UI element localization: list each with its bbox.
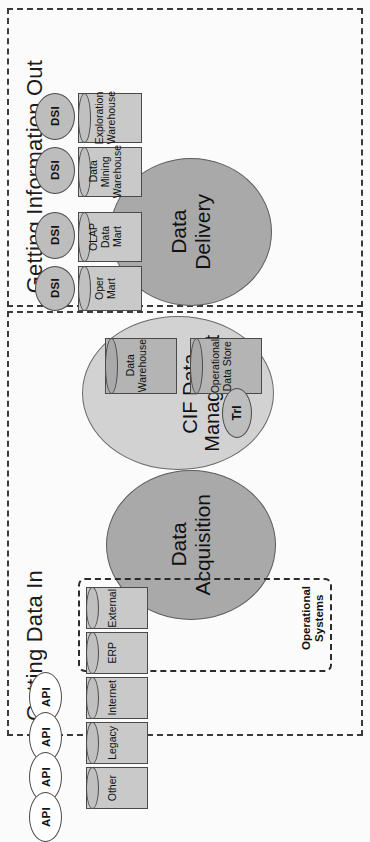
operational-systems-group-label: OperationalSystems — [300, 586, 326, 650]
api-connector-1-label: API — [40, 687, 52, 707]
source-external: External — [86, 587, 148, 629]
process-data-delivery-label: DataDelivery — [167, 194, 214, 270]
store-olap-data-mart-label: OLAP DataMart — [88, 213, 131, 261]
store-data-warehouse-label: DataWarehouse — [125, 339, 157, 392]
api-connector-3-label: API — [40, 767, 52, 787]
store-exploration-warehouse: ExplorationWarehouse — [78, 93, 142, 143]
consumer-dsi-3: DSI — [35, 212, 75, 259]
store-data-warehouse: DataWarehouse — [105, 338, 177, 394]
consumer-dsi-2-label: DSI — [49, 160, 61, 180]
store-trl-adjunct-label: Trl — [230, 405, 244, 421]
store-data-mining-warehouse-label: Data MiningWarehouse — [88, 145, 131, 198]
source-legacy: Legacy — [86, 722, 148, 764]
api-connector-4: API — [29, 792, 62, 842]
consumer-dsi-4-label: DSI — [49, 278, 61, 298]
store-data-mining-warehouse: Data MiningWarehouse — [78, 147, 142, 197]
api-connector-2-label: API — [40, 727, 52, 747]
source-legacy-label: Legacy — [107, 726, 127, 760]
source-external-label: External — [107, 589, 127, 628]
api-connector-4-label: API — [40, 807, 52, 827]
consumer-dsi-1-label: DSI — [49, 106, 61, 126]
store-operational-data-store-label: OperationalData Store — [210, 339, 242, 393]
consumer-dsi-1: DSI — [35, 93, 75, 140]
store-olap-data-mart: OLAP DataMart — [78, 212, 142, 262]
consumer-dsi-3-label: DSI — [49, 225, 61, 245]
source-internet-label: Internet — [107, 680, 127, 716]
source-other-label: Other — [107, 775, 127, 801]
source-internet: Internet — [86, 677, 148, 719]
consumer-dsi-2: DSI — [35, 147, 75, 194]
store-trl-adjunct: Trl — [222, 388, 252, 438]
store-exploration-warehouse-label: ExplorationWarehouse — [94, 91, 126, 144]
store-oper-mart-label: Oper Mart — [94, 267, 126, 310]
store-operational-data-store: OperationalData Store — [190, 338, 262, 394]
consumer-dsi-4: DSI — [35, 266, 75, 311]
source-erp: ERP — [86, 632, 148, 674]
source-erp-label: ERP — [107, 642, 127, 664]
store-oper-mart: Oper Mart — [78, 266, 142, 311]
source-other: Other — [86, 767, 148, 809]
